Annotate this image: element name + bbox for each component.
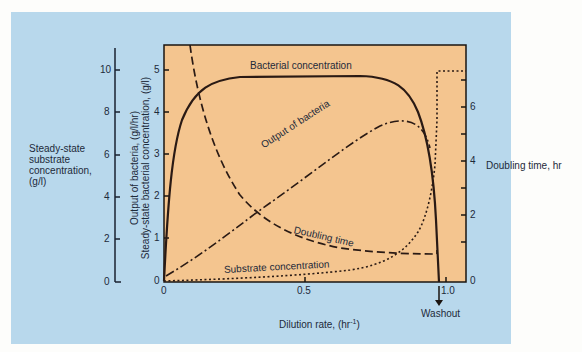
far-left-axis-title: Steady-state substrate concentration, (g… xyxy=(29,143,109,187)
far-left-tick: 8 xyxy=(104,106,110,118)
far-left-tick: 4 xyxy=(104,191,110,203)
right-tick: 6 xyxy=(470,101,476,113)
inner-tick: 5 xyxy=(154,64,160,76)
bacterial-axis-title: Steady-state bacterial concentration, (g… xyxy=(140,63,152,273)
inner-tick: 0 xyxy=(154,275,160,287)
plot-area xyxy=(164,45,466,282)
far-left-tick: 0 xyxy=(104,276,110,288)
far-left-axis xyxy=(115,48,121,282)
right-axis-title: Doubling time, hr xyxy=(486,160,562,172)
x-axis-title-text: Dilution rate, (hr xyxy=(279,319,350,330)
far-left-axis-title-line: Steady-state xyxy=(29,143,109,154)
x-tick: 0.5 xyxy=(297,285,311,297)
far-left-axis-title-line: concentration, xyxy=(29,165,109,176)
inner-tick: 3 xyxy=(154,148,160,160)
far-left-axis-title-line: substrate xyxy=(29,154,109,165)
right-tick: 0 xyxy=(470,275,476,287)
x-tick: 0 xyxy=(161,285,167,297)
far-left-axis-title-line: (g/l) xyxy=(29,176,109,187)
inner-tick: 2 xyxy=(154,190,160,202)
inner-tick: 4 xyxy=(154,106,160,118)
inner-tick: 1 xyxy=(154,232,160,244)
bacterial-curve-label: Bacterial concentration xyxy=(250,60,352,72)
far-left-tick: 2 xyxy=(104,233,110,245)
right-tick: 2 xyxy=(470,209,476,221)
x-tick: 1.0 xyxy=(441,285,455,297)
washout-label: Washout xyxy=(421,308,460,320)
x-axis-title: Dilution rate, (hr-1) xyxy=(279,316,360,331)
x-axis-title-end: ) xyxy=(356,319,359,330)
right-tick: 4 xyxy=(470,155,476,167)
far-left-tick: 10 xyxy=(100,64,111,76)
